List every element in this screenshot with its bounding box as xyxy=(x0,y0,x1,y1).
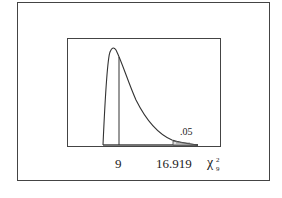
tail-area-label: .05 xyxy=(180,127,193,137)
axis-label-chi-square: χ29 xyxy=(207,156,213,170)
mean-tick-label: 9 xyxy=(115,157,122,170)
chi-square-curve xyxy=(0,0,282,198)
chi-subscript: 9 xyxy=(216,162,220,176)
critical-value-label: 16.919 xyxy=(156,157,192,170)
chi-symbol: χ xyxy=(207,155,213,170)
